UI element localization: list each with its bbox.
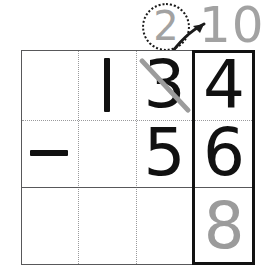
minuend-tens-cell: 3 [136, 50, 192, 119]
subtrahend-tens-value: 5 [144, 120, 185, 186]
subtraction-worksheet: 2 10 1 3 4 − 5 6 8 [0, 0, 267, 274]
subtrahend-tens-cell: 5 [136, 119, 192, 186]
digit-one-stroke [104, 58, 110, 112]
subtrahend-ones-cell: 6 [192, 119, 255, 186]
answer-ones-value: 8 [204, 194, 244, 258]
borrowed-ones-value: 10 [199, 0, 265, 50]
minuend-tens-value: 3 [144, 52, 185, 118]
answer-ones-cell: 8 [192, 190, 255, 262]
subtrahend-ones-value: 6 [203, 120, 244, 186]
subtraction-operator-cell: − [21, 119, 77, 186]
minuend-hundreds-cell: 1 [78, 50, 136, 119]
minuend-ones-cell: 4 [192, 50, 255, 119]
minuend-ones-value: 4 [203, 52, 244, 118]
minus-sign-icon [30, 150, 68, 156]
